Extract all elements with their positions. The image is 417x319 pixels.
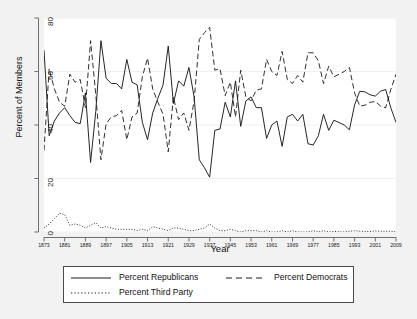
legend-item-third-party[interactable]: Percent Third Party <box>70 288 193 298</box>
legend-label-republicans: Percent Republicans <box>119 273 198 282</box>
chart-figure: 020406080 187318811889189719051913192119… <box>0 0 417 319</box>
legend-row-2: Percent Third Party <box>70 286 349 299</box>
legend-item-republicans[interactable]: Percent Republicans <box>70 273 225 283</box>
y-axis-title: Percent of Members <box>14 37 24 157</box>
legend-row-1: Percent Republicans Percent Democrats <box>70 271 349 284</box>
y-tick-80: 80 <box>47 17 55 37</box>
y-tick-40: 40 <box>47 124 55 144</box>
legend-item-democrats[interactable]: Percent Democrats <box>225 273 348 283</box>
legend-label-democrats: Percent Democrats <box>274 273 348 282</box>
legend-swatch-dotted <box>70 288 112 298</box>
y-tick-20: 20 <box>47 178 55 198</box>
legend-swatch-dashed <box>225 273 267 283</box>
y-tick-60: 60 <box>47 71 55 91</box>
x-axis-title: Year <box>44 243 396 254</box>
legend-swatch-solid <box>70 273 112 283</box>
legend-label-third-party: Percent Third Party <box>119 288 193 297</box>
chart-legend: Percent Republicans Percent Democrats Pe… <box>63 266 354 303</box>
chart-page: 020406080 187318811889189719051913192119… <box>0 0 417 319</box>
